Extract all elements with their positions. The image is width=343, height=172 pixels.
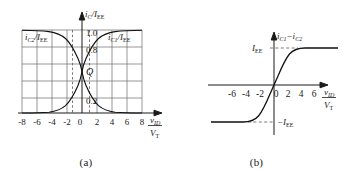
x-tick-label-b-m4: -4 xyxy=(242,89,250,99)
x-tick-label-b-2: 2 xyxy=(286,89,291,99)
svg-text:iC1−iC2: iC1−iC2 xyxy=(277,31,302,42)
y-axis-label-a: iC/IEE xyxy=(85,9,105,20)
chart-b-svg: IEE −IEE -6 -4 -2 0 2 4 6 iC1−iC2 xyxy=(170,0,343,145)
x-tick-label-a-0: 0 xyxy=(78,117,83,127)
y-tick-label-b-iee: IEE xyxy=(251,43,263,54)
x-tick-label-a-4: 4 xyxy=(110,117,115,127)
svg-text:iC2/IEE: iC2/IEE xyxy=(25,32,48,43)
x-tick-label-a-2: 2 xyxy=(95,117,100,127)
y-tick-label-a-3: 0.2 xyxy=(86,96,97,106)
y-tick-label-a-1: 1.0 xyxy=(86,28,98,38)
x-tick-label-a-m8: -8 xyxy=(18,117,26,127)
svg-text:VT: VT xyxy=(150,128,160,139)
x-axis-b xyxy=(208,82,328,88)
svg-text:vID: vID xyxy=(150,115,161,126)
series-label-ic2: iC2/IEE xyxy=(25,32,48,43)
x-tick-label-a-m4: -4 xyxy=(48,117,56,127)
y-tick-label-a-2: 0.8 xyxy=(86,45,98,55)
svg-text:iC/IEE: iC/IEE xyxy=(85,9,105,20)
svg-text:IEE: IEE xyxy=(251,43,263,54)
chart-a-svg: 1.0 0.8 0.2 Q -8 -6 -4 -2 0 2 4 6 8 iC/I… xyxy=(0,0,172,145)
x-tick-label-a-m6: -6 xyxy=(33,117,41,127)
x-tick-label-a-8: 8 xyxy=(140,117,145,127)
caption-b: (b) xyxy=(170,156,343,168)
x-tick-label-a-6: 6 xyxy=(125,117,130,127)
caption-a: (a) xyxy=(0,156,172,168)
svg-text:−IEE: −IEE xyxy=(277,117,294,128)
x-tick-label-b-0: 0 xyxy=(274,89,279,99)
x-axis-label-a: vID VT xyxy=(148,115,162,139)
svg-text:vID: vID xyxy=(324,87,335,98)
x-tick-label-a-m2: -2 xyxy=(63,117,71,127)
x-tick-label-b-m2: -2 xyxy=(256,89,264,99)
y-tick-label-b-neg-iee: −IEE xyxy=(277,117,294,128)
x-tick-label-b-6: 6 xyxy=(312,89,317,99)
svg-text:VT: VT xyxy=(324,100,334,111)
annotation-q-label: Q xyxy=(86,66,94,77)
chart-panel-b: IEE −IEE -6 -4 -2 0 2 4 6 iC1−iC2 xyxy=(170,0,343,172)
x-tick-label-b-4: 4 xyxy=(299,89,304,99)
chart-panel-a: 1.0 0.8 0.2 Q -8 -6 -4 -2 0 2 4 6 8 iC/I… xyxy=(0,0,172,172)
y-axis-label-b: iC1−iC2 xyxy=(277,31,302,42)
x-axis-label-b: vID VT xyxy=(322,87,336,111)
x-tick-label-b-m6: -6 xyxy=(228,89,236,99)
figure-root: 1.0 0.8 0.2 Q -8 -6 -4 -2 0 2 4 6 8 iC/I… xyxy=(0,0,343,172)
